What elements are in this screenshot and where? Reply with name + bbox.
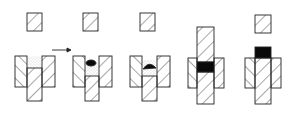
lower-punch <box>255 58 271 104</box>
die-left <box>188 58 197 88</box>
upper-punch <box>255 15 271 33</box>
die-right <box>271 58 281 88</box>
stage-5 <box>245 15 281 104</box>
die-right <box>157 56 170 87</box>
powder <box>27 56 42 68</box>
die-left <box>73 56 85 87</box>
lower-punch <box>142 76 157 101</box>
lower-punch <box>27 68 42 101</box>
stage-1 <box>15 13 55 101</box>
die-left <box>245 58 255 88</box>
die-right <box>42 56 55 87</box>
die-left <box>130 56 142 87</box>
compaction-diagram <box>0 0 296 116</box>
die-right <box>99 56 112 87</box>
arrow-icon <box>52 48 71 52</box>
upper-punch <box>27 13 42 31</box>
charge <box>86 60 96 66</box>
die-left <box>15 56 27 87</box>
stage-3 <box>130 13 170 101</box>
stage-4 <box>188 27 224 104</box>
compact <box>197 62 214 72</box>
stage-2 <box>73 13 112 101</box>
die-right <box>214 58 224 88</box>
compact <box>255 47 271 58</box>
upper-punch <box>140 13 155 31</box>
upper-punch <box>83 13 98 31</box>
lower-punch <box>197 72 214 104</box>
lower-punch <box>85 76 99 101</box>
upper-punch <box>197 27 214 62</box>
